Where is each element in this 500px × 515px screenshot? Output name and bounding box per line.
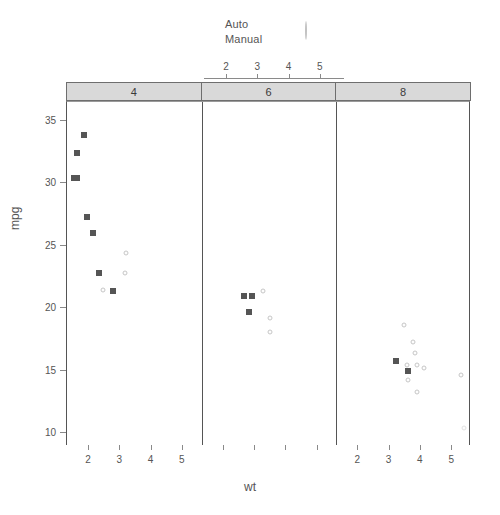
x-axis-panel-8: 2345 xyxy=(335,445,470,485)
data-point-auto xyxy=(459,372,464,377)
x-tick xyxy=(317,445,318,450)
data-point-manual xyxy=(90,230,96,236)
data-point-auto xyxy=(122,271,127,276)
y-tick-label: 25 xyxy=(45,239,56,250)
y-tick xyxy=(60,370,66,371)
data-point-auto xyxy=(402,322,407,327)
data-point-manual xyxy=(246,309,252,315)
x-tick-label: 5 xyxy=(448,454,454,465)
y-axis-title: mpg xyxy=(8,207,22,230)
panel-strip-6: 6 xyxy=(201,82,337,101)
data-point-auto xyxy=(422,366,427,371)
legend-entry-manual: Manual xyxy=(225,33,345,48)
x-tick-label: 3 xyxy=(386,454,392,465)
top-tick-label: 5 xyxy=(317,61,323,72)
x-tick xyxy=(254,445,255,450)
plot-area xyxy=(66,101,470,445)
data-point-auto xyxy=(414,390,419,395)
data-point-auto xyxy=(101,287,106,292)
data-point-auto xyxy=(406,377,411,382)
data-point-auto xyxy=(415,362,420,367)
top-axis: 2345 xyxy=(204,57,344,79)
x-tick xyxy=(420,445,421,450)
y-tick-label: 35 xyxy=(45,114,56,125)
x-axis-title: wt xyxy=(0,480,500,494)
legend-label-auto: Auto xyxy=(225,18,248,30)
x-axis-panel-4: 2345 xyxy=(66,445,201,485)
x-axis-panel-6 xyxy=(201,445,336,485)
legend-label-manual: Manual xyxy=(225,33,262,45)
y-tick xyxy=(60,120,66,121)
y-tick xyxy=(60,307,66,308)
data-point-auto xyxy=(260,288,265,293)
panel-4 xyxy=(67,102,202,445)
data-point-manual xyxy=(74,150,80,156)
x-tick xyxy=(285,445,286,450)
y-tick xyxy=(60,432,66,433)
y-tick xyxy=(60,245,66,246)
top-tick-label: 4 xyxy=(286,61,292,72)
x-tick xyxy=(119,445,120,450)
x-axis: 23452345 xyxy=(66,445,470,485)
x-tick-label: 4 xyxy=(148,454,154,465)
data-point-auto xyxy=(412,351,417,356)
chart-legend: Auto Manual xyxy=(225,18,345,50)
x-tick xyxy=(223,445,224,450)
data-point-manual xyxy=(110,288,116,294)
y-tick-label: 10 xyxy=(45,427,56,438)
panel-strip-8: 8 xyxy=(335,82,471,101)
x-tick xyxy=(389,445,390,450)
data-point-manual xyxy=(81,132,87,138)
data-point-auto xyxy=(268,330,273,335)
y-tick-label: 15 xyxy=(45,364,56,375)
data-point-manual xyxy=(96,270,102,276)
y-tick-label: 30 xyxy=(45,177,56,188)
top-tick xyxy=(289,74,290,79)
data-point-manual xyxy=(74,175,80,181)
x-tick-label: 5 xyxy=(179,454,185,465)
data-point-manual xyxy=(393,358,399,364)
x-tick xyxy=(357,445,358,450)
x-tick-label: 4 xyxy=(417,454,423,465)
top-tick-label: 3 xyxy=(254,61,260,72)
y-tick xyxy=(60,182,66,183)
x-tick xyxy=(88,445,89,450)
x-tick xyxy=(182,445,183,450)
data-point-manual xyxy=(249,293,255,299)
panel-strip-4: 4 xyxy=(66,82,202,101)
x-tick xyxy=(151,445,152,450)
x-tick-label: 3 xyxy=(116,454,122,465)
data-point-manual xyxy=(84,214,90,220)
panel-strip-row: 468 xyxy=(66,82,470,101)
panel-6 xyxy=(202,102,337,445)
data-point-auto xyxy=(267,316,272,321)
top-tick-label: 2 xyxy=(223,61,229,72)
data-point-manual xyxy=(405,368,411,374)
x-tick-label: 2 xyxy=(85,454,91,465)
top-tick xyxy=(320,74,321,79)
data-point-auto xyxy=(404,362,409,367)
top-tick xyxy=(226,74,227,79)
top-tick xyxy=(257,74,258,79)
panel-8 xyxy=(336,102,471,445)
y-axis: 101520253035 xyxy=(0,101,66,445)
data-point-manual xyxy=(241,293,247,299)
x-tick xyxy=(451,445,452,450)
data-point-auto xyxy=(411,340,416,345)
data-point-auto xyxy=(462,426,467,431)
y-tick-label: 20 xyxy=(45,302,56,313)
legend-entry-auto: Auto xyxy=(225,18,345,33)
data-point-auto xyxy=(124,251,129,256)
chart-root: Auto Manual 2345 468 101520253035 mpg 23… xyxy=(0,0,500,515)
x-tick-label: 2 xyxy=(354,454,360,465)
